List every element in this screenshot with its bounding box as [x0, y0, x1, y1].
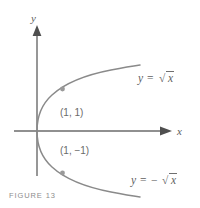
- y-axis-label: y: [30, 12, 36, 24]
- point-marker-1-minus1: [60, 171, 65, 176]
- lower-label-lhs: y: [130, 174, 137, 187]
- lower-label-equals: =: [140, 174, 147, 186]
- lower-label-minus: −: [151, 174, 158, 186]
- upper-label-lhs: y: [137, 72, 144, 85]
- upper-label-radicand: x: [167, 72, 174, 84]
- svg-text:y = √: y = √ x: [137, 72, 174, 85]
- upper-label-radical: √: [159, 72, 166, 84]
- x-axis-label: x: [176, 125, 182, 137]
- lower-label-radicand: x: [170, 174, 177, 186]
- y-axis-arrowhead: [33, 25, 42, 36]
- plot-area: x y (1, 1) (1, −1) y = √ x: [0, 0, 200, 208]
- lower-label-radical: √: [162, 174, 169, 186]
- figure-13: x y (1, 1) (1, −1) y = √ x: [0, 0, 200, 208]
- point-marker-1-1: [60, 87, 65, 92]
- curve-label-lower: y = − √ x: [130, 174, 177, 188]
- curve-lower-branch: [37, 131, 140, 197]
- point-label-1-1: (1, 1): [60, 107, 83, 118]
- point-label-1-minus1: (1, −1): [60, 145, 89, 156]
- figure-caption: FIGURE 13: [9, 191, 56, 200]
- x-axis-arrowhead: [160, 127, 172, 136]
- svg-text:y = −: y = − √ x: [130, 174, 177, 187]
- curve-label-upper: y = √ x: [137, 72, 174, 86]
- curve-upper-branch: [37, 65, 140, 131]
- upper-label-equals: =: [147, 72, 154, 84]
